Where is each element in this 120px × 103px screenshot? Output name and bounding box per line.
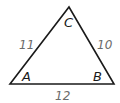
side-label-ac: 11	[19, 38, 34, 52]
side-label-ab: 12	[55, 89, 70, 103]
vertex-label-a: A	[21, 69, 31, 84]
vertex-label-c: C	[64, 15, 74, 30]
vertex-label-b: B	[93, 69, 102, 84]
triangle-diagram: C A B 11 10 12	[0, 0, 120, 103]
side-label-bc: 10	[97, 38, 113, 52]
